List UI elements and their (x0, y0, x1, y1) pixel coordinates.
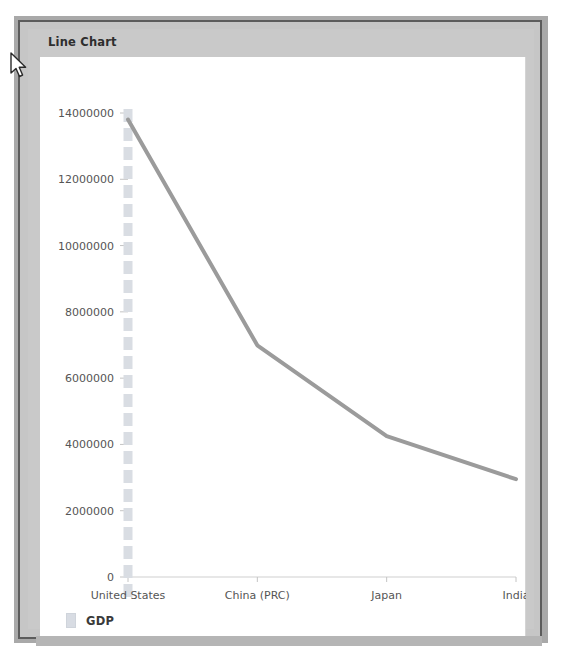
page-title: Line Chart (48, 35, 117, 49)
x-axis-tick-label: India (503, 589, 527, 601)
x-axis-tick-label: China (PRC) (225, 589, 290, 601)
series-line-gdp[interactable] (128, 120, 516, 480)
y-axis-tick-label: 6000000 (65, 372, 114, 385)
x-axis-tick-label: United States (91, 589, 166, 601)
y-axis: 0200000040000006000000800000010000000120… (58, 107, 128, 584)
plot-panel[interactable]: 0200000040000006000000800000010000000120… (40, 57, 526, 601)
screen-root: Line Chart 02000000400000060000008000000… (0, 0, 567, 663)
legend-item-label: GDP (86, 614, 114, 628)
chart-titlebar: Line Chart (28, 29, 534, 57)
line-chart-svg[interactable]: 0200000040000006000000800000010000000120… (40, 57, 526, 601)
y-axis-tick-label: 10000000 (58, 240, 114, 253)
y-axis-tick-label: 2000000 (65, 505, 114, 518)
y-axis-tick-label: 14000000 (58, 107, 114, 120)
y-axis-tick-label: 12000000 (58, 173, 114, 186)
x-axis-labels: United StatesChina (PRC)JapanIndia (91, 589, 526, 601)
x-axis-ticks (128, 577, 516, 582)
x-axis-tick-label: Japan (370, 589, 402, 601)
y-axis-tick-label: 8000000 (65, 306, 114, 319)
y-axis-tick-label: 0 (107, 571, 114, 584)
y-axis-tick-label: 4000000 (65, 438, 114, 451)
legend-swatch-icon (66, 613, 76, 628)
widget-bottom-lip (36, 636, 542, 646)
chart-widget-chrome: Line Chart 02000000400000060000008000000… (28, 29, 534, 629)
legend-item-gdp[interactable]: GDP (66, 613, 114, 628)
chart-widget-frame: Line Chart 02000000400000060000008000000… (18, 20, 542, 639)
